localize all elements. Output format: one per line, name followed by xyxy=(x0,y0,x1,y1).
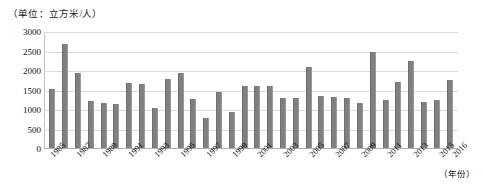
bar-slot xyxy=(161,32,174,149)
y-axis-tick-label: 2000 xyxy=(1,66,41,76)
bar xyxy=(165,79,171,149)
bar-slot xyxy=(418,32,431,149)
bar-slot xyxy=(405,32,418,149)
bar xyxy=(126,83,132,149)
bar xyxy=(370,52,376,150)
y-axis-tick-label: 3000 xyxy=(1,27,41,37)
bar xyxy=(229,112,235,149)
bar-slot xyxy=(46,32,59,149)
bar xyxy=(203,118,209,149)
bar xyxy=(357,103,363,149)
bar-slot xyxy=(354,32,367,149)
bar-slot xyxy=(136,32,149,149)
bar-slot xyxy=(123,32,136,149)
x-axis-tick-labels: 1985198719891991199319951997199920012003… xyxy=(44,150,458,184)
bar xyxy=(75,73,81,149)
bar xyxy=(49,89,55,149)
bar-slot xyxy=(200,32,213,149)
bar xyxy=(178,73,184,149)
y-axis-tick-label: 500 xyxy=(1,125,41,135)
bar xyxy=(152,108,158,149)
bar xyxy=(447,80,453,149)
bar-slot xyxy=(443,32,456,149)
water-resources-per-capita-bar-chart: （单位：立方米/人） 050010001500200025003000 1985… xyxy=(0,0,483,191)
y-axis-tick-label: 0 xyxy=(1,144,41,154)
x-axis-title: （年份） xyxy=(439,167,475,179)
bar-slot xyxy=(302,32,315,149)
bar xyxy=(267,86,273,149)
bar xyxy=(408,61,414,149)
bar xyxy=(254,86,260,149)
bar-slot xyxy=(289,32,302,149)
bar-slot xyxy=(251,32,264,149)
bar-slot xyxy=(97,32,110,149)
bar xyxy=(306,67,312,149)
bar-slot xyxy=(328,32,341,149)
bar-slot xyxy=(72,32,85,149)
bar xyxy=(280,98,286,149)
bar xyxy=(62,44,68,149)
bar-slot xyxy=(392,32,405,149)
bar-slot xyxy=(341,32,354,149)
bar-slot xyxy=(174,32,187,149)
bar xyxy=(383,100,389,149)
bar xyxy=(434,100,440,149)
bar-slot xyxy=(379,32,392,149)
bar xyxy=(331,97,337,149)
bar-slot xyxy=(110,32,123,149)
bar-series xyxy=(44,32,458,149)
bar-slot xyxy=(430,32,443,149)
y-axis-tick-labels: 050010001500200025003000 xyxy=(0,32,41,149)
bar-slot xyxy=(213,32,226,149)
bar xyxy=(139,84,145,149)
bar-slot xyxy=(59,32,72,149)
bar-slot xyxy=(366,32,379,149)
bar xyxy=(101,103,107,149)
chart-unit-caption: （单位：立方米/人） xyxy=(8,6,103,20)
bar-slot xyxy=(238,32,251,149)
y-axis-tick-label: 1500 xyxy=(1,86,41,96)
bar-slot xyxy=(225,32,238,149)
plot-area xyxy=(44,32,458,149)
bar-slot xyxy=(84,32,97,149)
bar-slot xyxy=(149,32,162,149)
bar-slot xyxy=(264,32,277,149)
bar-slot xyxy=(187,32,200,149)
bar-slot xyxy=(277,32,290,149)
bar-slot xyxy=(315,32,328,149)
y-axis-tick-label: 2500 xyxy=(1,47,41,57)
y-axis-tick-label: 1000 xyxy=(1,105,41,115)
